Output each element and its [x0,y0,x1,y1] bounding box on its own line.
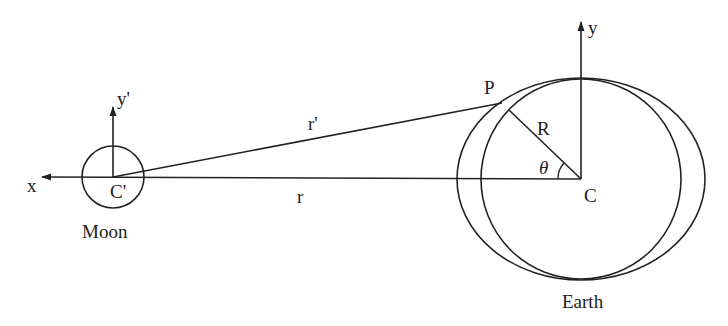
theta-angle-arc [558,163,564,179]
r-prime-distance-label: r' [308,113,318,134]
r-distance-label: r [297,186,304,207]
earth-label: Earth [562,291,604,312]
moon-label: Moon [82,221,128,242]
x-axis-label: x [27,175,37,196]
earth-center-label: C [584,185,597,206]
y-prime-axis-label: y' [117,88,130,109]
moon-center-label: C' [110,181,126,202]
theta-label: θ [539,157,548,178]
earth-moon-tidal-diagram: x y y' C' C P R θ r r' Moon Earth [0,0,728,326]
y-axis-label: y [588,17,598,38]
point-label: P [484,77,495,98]
x-axis-line [42,177,581,179]
radius-label: R [537,118,550,139]
